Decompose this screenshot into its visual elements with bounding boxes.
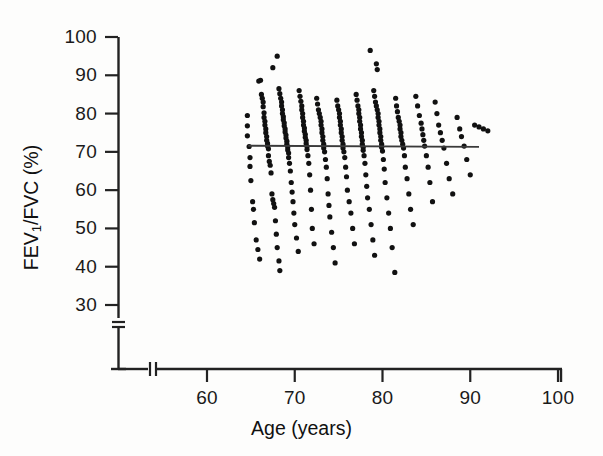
data-point — [372, 253, 377, 258]
data-point — [352, 241, 357, 246]
data-point — [298, 99, 303, 104]
data-point — [275, 54, 280, 59]
data-point — [275, 245, 280, 250]
data-point — [245, 123, 250, 128]
data-point — [254, 237, 259, 242]
data-point — [314, 96, 319, 101]
data-point — [421, 138, 426, 143]
data-point — [384, 195, 389, 200]
data-point — [464, 157, 469, 162]
data-point — [274, 232, 279, 237]
data-point — [417, 113, 422, 118]
y-tick-label-60: 60 — [45, 179, 97, 201]
data-point — [427, 180, 432, 185]
x-tick-label-100: 100 — [528, 387, 588, 409]
data-point — [454, 115, 459, 120]
data-point — [436, 122, 441, 127]
data-point — [430, 199, 435, 204]
data-point — [411, 222, 416, 227]
data-point — [433, 99, 438, 104]
data-point — [272, 205, 277, 210]
data-point — [304, 147, 309, 152]
data-point — [308, 188, 313, 193]
data-point — [390, 245, 395, 250]
data-point — [364, 184, 369, 189]
data-point — [450, 191, 455, 196]
data-point — [403, 165, 408, 170]
data-point — [393, 96, 398, 101]
data-point — [306, 161, 311, 166]
data-point — [291, 211, 296, 216]
data-point — [374, 61, 379, 66]
data-point — [258, 78, 263, 83]
x-tick-label-70: 70 — [265, 387, 325, 409]
data-point — [251, 207, 256, 212]
data-point — [309, 207, 314, 212]
data-point — [268, 163, 273, 168]
data-point — [354, 98, 359, 103]
data-point — [273, 218, 278, 223]
data-point — [252, 220, 257, 225]
data-point — [289, 180, 294, 185]
data-point — [347, 199, 352, 204]
y-tick-label-70: 70 — [45, 141, 97, 163]
data-point — [380, 148, 385, 153]
data-point — [468, 172, 473, 177]
data-point — [426, 165, 431, 170]
data-point — [261, 99, 266, 104]
data-point — [402, 153, 407, 158]
data-point — [408, 207, 413, 212]
data-point — [315, 101, 320, 106]
data-point — [329, 230, 334, 235]
x-tick-label-90: 90 — [440, 387, 500, 409]
data-point — [310, 226, 315, 231]
data-point — [292, 222, 297, 227]
data-point — [325, 191, 330, 196]
data-point — [406, 191, 411, 196]
data-point — [334, 98, 339, 103]
data-point — [424, 153, 429, 158]
data-point — [394, 103, 399, 108]
axes-group — [111, 37, 562, 382]
data-point — [266, 153, 271, 158]
y-axis-title: FEV1/FVC (%) — [20, 113, 43, 303]
data-point — [434, 111, 439, 116]
data-point — [326, 203, 331, 208]
data-point — [261, 110, 266, 115]
data-point — [342, 155, 347, 160]
data-point — [440, 138, 445, 143]
data-point — [404, 176, 409, 181]
data-point — [257, 256, 262, 261]
data-point — [268, 170, 273, 175]
data-point — [294, 235, 299, 240]
data-point — [341, 149, 346, 154]
data-point — [297, 94, 302, 99]
data-point — [296, 249, 301, 254]
data-point — [365, 195, 370, 200]
data-point — [447, 176, 452, 181]
data-point — [444, 161, 449, 166]
data-point — [386, 211, 391, 216]
data-point — [413, 94, 418, 99]
data-points-group — [245, 48, 491, 275]
data-point — [247, 155, 252, 160]
y-tick-label-100: 100 — [45, 26, 97, 48]
y-axis-title-base: FEV — [20, 232, 42, 270]
data-point — [361, 148, 366, 153]
x-axis-title: Age (years) — [0, 417, 603, 440]
data-point — [382, 166, 387, 171]
data-point — [419, 126, 424, 131]
data-point — [286, 155, 291, 160]
data-point — [419, 121, 424, 126]
y-axis-title-rest: /FVC (%) — [20, 145, 42, 225]
data-point — [388, 226, 393, 231]
data-point — [286, 150, 291, 155]
data-point — [343, 165, 348, 170]
data-point — [383, 180, 388, 185]
data-point — [370, 237, 375, 242]
data-point — [250, 199, 255, 204]
data-point — [290, 199, 295, 204]
data-point — [261, 104, 266, 109]
data-point — [368, 222, 373, 227]
x-tick-group — [207, 369, 558, 382]
